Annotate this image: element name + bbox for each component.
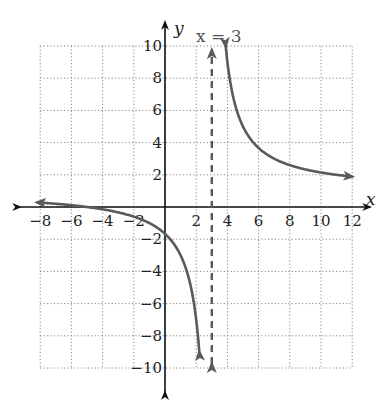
y-tick-label: −6 xyxy=(140,295,162,313)
y-tick-label: −10 xyxy=(130,359,162,377)
x-tick-label: 4 xyxy=(223,212,233,230)
y-tick-label: 6 xyxy=(152,101,162,119)
x-tick-label: 6 xyxy=(254,212,264,230)
y-tick-label: 8 xyxy=(152,69,162,87)
x-tick-label: −8 xyxy=(29,212,51,230)
y-tick-label: 10 xyxy=(143,37,162,55)
y-tick-label: −8 xyxy=(140,327,162,345)
right-branch xyxy=(226,46,353,176)
x-tick-label: 10 xyxy=(311,212,330,230)
curves xyxy=(37,46,352,352)
y-tick-label: 2 xyxy=(152,166,162,184)
x-tick-label: 8 xyxy=(285,212,295,230)
rational-function-graph: −8−6−4−224681012−10−8−6−4−2246810 x y x … xyxy=(0,0,391,411)
x-tick-label: −6 xyxy=(60,212,82,230)
x-tick-label: 2 xyxy=(191,212,201,230)
y-tick-label: −4 xyxy=(140,262,162,280)
x-tick-label: 12 xyxy=(343,212,362,230)
asymptote-label: x = 3 xyxy=(196,26,241,46)
y-tick-label: −2 xyxy=(140,230,162,248)
y-tick-label: 4 xyxy=(152,134,162,152)
y-axis-label: y xyxy=(173,18,184,38)
x-axis-label: x xyxy=(366,189,376,209)
axes xyxy=(20,22,370,392)
x-tick-label: −4 xyxy=(92,212,114,230)
